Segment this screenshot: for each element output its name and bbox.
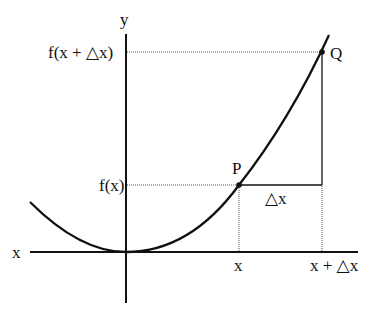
x-dx-tick-label: x + △x (310, 256, 359, 275)
point-p (236, 182, 242, 188)
y-axis-label: y (120, 10, 129, 29)
parabola-curve (30, 35, 329, 252)
x-axis-label: x (12, 243, 21, 262)
parabola-diagram: y x f(x + △x) f(x) P Q △x x x + △x (0, 0, 370, 312)
fx-dx-label: f(x + △x) (48, 43, 113, 62)
delta-x-label: △x (265, 189, 287, 208)
fx-label: f(x) (99, 176, 124, 195)
point-p-label: P (232, 159, 241, 178)
point-q (319, 49, 325, 55)
x-tick-label: x (234, 256, 243, 275)
point-q-label: Q (330, 44, 342, 63)
